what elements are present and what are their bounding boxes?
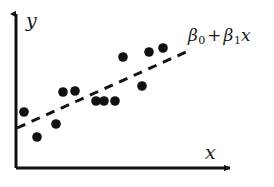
data-point [51,119,61,129]
beta-zero-symbol: β [188,25,198,45]
regression-line [17,52,186,128]
data-point [144,47,154,57]
data-point [137,81,147,91]
data-point [158,43,168,53]
x-axis-label: x [205,143,216,162]
data-point [19,107,29,117]
data-point [99,96,109,106]
beta-one-symbol: β [224,25,234,45]
scatter-plot-figure: y x β0+β1x [0,0,274,187]
beta-one-subscript: 1 [234,34,241,47]
data-point [70,86,80,96]
beta-zero-subscript: 0 [198,34,205,47]
x-variable-symbol: x [241,25,251,45]
data-point [110,96,120,106]
data-point [118,52,128,62]
y-axis-label: y [26,11,37,30]
data-point [58,87,68,97]
plus-operator: + [207,25,221,45]
regression-line-label: β0+β1x [188,27,251,46]
data-point [32,132,42,142]
